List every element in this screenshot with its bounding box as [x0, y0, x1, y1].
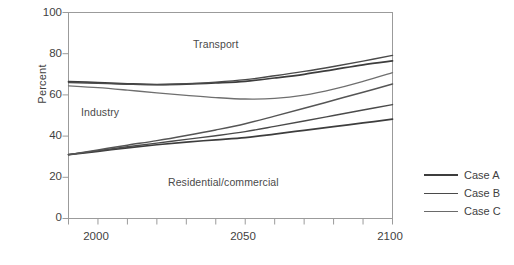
chart-figure: Percent 100 80 60 40 20 0 2000 2050 2100… [0, 0, 514, 265]
legend-label: Case C [464, 206, 501, 217]
x-tick-label: 2050 [213, 231, 273, 243]
x-axis-tick-labels: 2000 2050 2100 [0, 0, 514, 265]
region-label-residential: Residential/commercial [168, 176, 279, 188]
legend-item-case-c[interactable]: Case C [424, 203, 510, 219]
region-label-transport: Transport [193, 38, 238, 50]
x-tick-label: 2000 [66, 231, 126, 243]
legend-label: Case B [464, 188, 500, 199]
legend-swatch-case-b [424, 193, 458, 194]
legend-swatch-case-c [424, 211, 458, 212]
legend: Case A Case B Case C [424, 167, 510, 221]
legend-swatch-case-a [424, 174, 458, 176]
x-tick-label: 2100 [360, 231, 420, 243]
legend-item-case-b[interactable]: Case B [424, 185, 510, 201]
legend-item-case-a[interactable]: Case A [424, 167, 510, 183]
region-label-industry: Industry [81, 106, 119, 118]
legend-label: Case A [464, 170, 499, 181]
